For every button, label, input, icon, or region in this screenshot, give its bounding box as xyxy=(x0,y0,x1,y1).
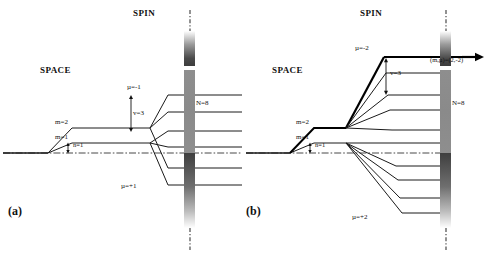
panel-a-lines xyxy=(0,0,245,257)
nu-arrow-head-up-b xyxy=(384,58,388,62)
panel-a: SPIN SPACE µ=-1 v=3 N=8 m=2 m=1 n=1 µ=+1… xyxy=(0,0,245,257)
spin-header-b: SPIN xyxy=(360,9,382,18)
n-label-b: N=8 xyxy=(452,100,465,107)
spin-header-a: SPIN xyxy=(133,9,155,18)
spin-level-a-4 xyxy=(150,143,242,147)
annotation-label-b: (m,µ)=(2,-2) xyxy=(430,57,463,64)
n-bar-lower-b xyxy=(440,153,451,228)
mu-top-label-a: µ=-1 xyxy=(127,84,141,91)
nu-label-a: v=3 xyxy=(133,110,144,117)
space-header-a: SPACE xyxy=(40,66,71,75)
nu-arrow-head-down-a xyxy=(129,128,133,132)
n-bar-middle-b xyxy=(440,70,451,153)
nu-arrow-head-up-a xyxy=(129,95,133,99)
space-header-b: SPACE xyxy=(272,66,303,75)
m2-label-a: m=2 xyxy=(55,119,68,126)
n1-label-a: n=1 xyxy=(73,142,83,149)
spin-level-a-6 xyxy=(150,143,242,185)
spin-level-b-5 xyxy=(346,128,446,130)
panel-b: SPIN SPACE µ=-2 (m,µ)=(2,-2) v=3 N=8 m=2… xyxy=(246,0,491,257)
nu-arrow-head-down-b xyxy=(384,91,388,95)
mu-top-label-b: µ=-2 xyxy=(355,45,369,52)
mu-bottom-label-b: µ=+2 xyxy=(352,214,367,221)
m2-label-b: m=2 xyxy=(296,119,309,126)
mu-bottom-label-a: µ=+1 xyxy=(121,183,136,190)
m1-label-b: m=1 xyxy=(296,134,309,141)
n-bar-middle-a xyxy=(184,70,195,153)
highlight-transition-b xyxy=(346,57,384,128)
n1-label-b: n=1 xyxy=(315,142,325,149)
spin-level-a-2 xyxy=(150,112,242,128)
panel-b-lines xyxy=(246,0,491,257)
space-level-m1 xyxy=(48,143,150,153)
spin-level-b-9 xyxy=(346,143,446,198)
n-label-a: N=8 xyxy=(196,100,209,107)
n-bar-lower-a xyxy=(184,153,195,228)
spin-level-a-3 xyxy=(150,131,242,143)
panel-label-a: (a) xyxy=(8,205,22,217)
n-bar-top-fade-a xyxy=(184,31,195,66)
m1-label-a: m=1 xyxy=(55,134,68,141)
figure-root: SPIN SPACE µ=-1 v=3 N=8 m=2 m=1 n=1 µ=+1… xyxy=(0,0,491,257)
annotation-arrow-head-b xyxy=(475,53,484,61)
nu-label-b: v=3 xyxy=(390,70,401,77)
spin-level-b-4 xyxy=(346,110,446,128)
panel-label-b: (b) xyxy=(246,205,261,217)
